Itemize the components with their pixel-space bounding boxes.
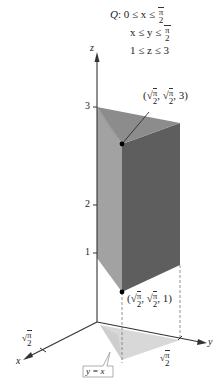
callout-label: y = x (86, 366, 105, 376)
z-tick-3: 3 (85, 100, 90, 111)
constraint-z: 1 ≤ z ≤ 3 (110, 42, 220, 59)
front-face (122, 123, 180, 292)
x-tick-label: √π2 (22, 330, 32, 347)
y-axis-arrow (197, 339, 207, 345)
two: 2 (27, 338, 32, 348)
x-axis-label: x (16, 355, 20, 366)
z-value: 1 (163, 292, 169, 304)
z-axis-label: z (90, 42, 94, 53)
z-tick-1: 1 (85, 246, 90, 257)
z-value: 3 (179, 89, 185, 101)
top-point (120, 142, 125, 147)
two: 2 (165, 358, 170, 368)
y-tick-label: √π2 (160, 350, 170, 367)
constraint-x: 0 ≤ x ≤ (124, 8, 155, 20)
x-axis (28, 322, 97, 357)
x-axis-arrow (23, 352, 33, 360)
bottom-point-label: (√π2, √π2, 1) (127, 291, 172, 308)
top-point-label: (√π2, √π2, 3) (143, 88, 188, 105)
bottom-point (120, 290, 125, 295)
region-name: Q (110, 8, 118, 20)
constraint-y: x ≤ y ≤ (130, 26, 161, 38)
z-tick-2: 2 (85, 198, 90, 209)
two: 2 (137, 299, 142, 309)
region-definition: Q: 0 ≤ x ≤ π 2 x ≤ y ≤ π 2 1 ≤ z ≤ 3 (110, 6, 220, 59)
two: 2 (169, 96, 174, 106)
two: 2 (153, 299, 158, 309)
y-axis-label: y (208, 336, 212, 347)
z-axis-arrow (95, 52, 100, 62)
two: 2 (153, 96, 158, 106)
